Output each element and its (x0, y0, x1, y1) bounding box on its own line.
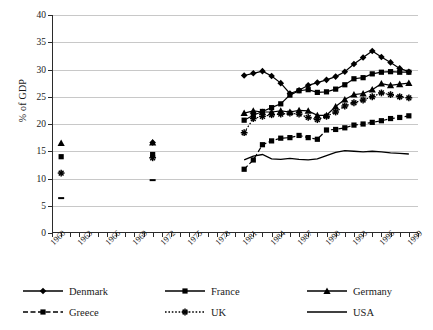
data-point-square (324, 127, 329, 132)
data-point-square (379, 118, 384, 123)
data-point-square (278, 136, 283, 141)
data-point-square (242, 167, 247, 172)
data-point-triangle (378, 80, 385, 87)
series-usa (58, 151, 409, 198)
series-line (244, 116, 409, 169)
data-point-diamond (378, 54, 385, 61)
data-point-square (296, 88, 301, 93)
data-point-square (370, 71, 375, 76)
data-point-asterisk (323, 113, 330, 120)
data-point-asterisk (332, 109, 339, 116)
data-point-diamond (259, 68, 266, 75)
data-point-asterisk (241, 129, 248, 136)
data-point-diamond (250, 70, 257, 77)
data-point-square (333, 127, 338, 132)
data-point-square (251, 157, 256, 162)
data-point-asterisk (351, 99, 358, 106)
series-uk (58, 90, 413, 177)
data-point-square (242, 118, 247, 123)
data-point-square (296, 133, 301, 138)
data-point-square (406, 113, 411, 118)
data-point-asterisk (378, 90, 385, 97)
data-point-diamond (241, 72, 248, 79)
data-point-square (361, 121, 366, 126)
series-greece (242, 113, 412, 172)
legend-marker-asterisk-icon (164, 305, 206, 319)
legend-row: DenmarkFranceGermany (22, 282, 412, 300)
legend-row: GreeceUKUSA (22, 303, 412, 321)
data-point-square (397, 70, 402, 75)
data-point-diamond (40, 288, 47, 295)
series-line (244, 151, 409, 160)
data-point-square (260, 142, 265, 147)
data-point-asterisk (182, 309, 189, 316)
data-point-square (379, 70, 384, 75)
legend-label: Greece (69, 307, 99, 318)
data-point-square (287, 93, 292, 98)
data-point-triangle (250, 107, 257, 114)
data-series-layer (0, 0, 433, 330)
data-point-asterisk (277, 111, 284, 118)
legend-item-denmark[interactable]: Denmark (22, 282, 108, 300)
data-point-triangle (369, 86, 376, 93)
series-france (59, 69, 412, 159)
data-point-square (388, 69, 393, 74)
legend-item-uk[interactable]: UK (164, 303, 226, 321)
data-point-square (306, 87, 311, 92)
legend-label: UK (211, 307, 226, 318)
legend-marker-square-icon (164, 284, 206, 298)
data-point-square (351, 122, 356, 127)
data-point-asterisk (305, 114, 312, 121)
data-point-square (342, 82, 347, 87)
data-point-square (388, 116, 393, 121)
legend-marker-none-icon (306, 305, 348, 319)
data-point-square (370, 120, 375, 125)
data-point-diamond (314, 79, 321, 86)
legend-marker-square-icon (22, 305, 64, 319)
legend-label: USA (353, 307, 374, 318)
data-point-square (406, 70, 411, 75)
data-point-square (361, 75, 366, 80)
series-germany (58, 80, 413, 147)
data-point-square (324, 89, 329, 94)
legend-item-france[interactable]: France (164, 282, 240, 300)
data-point-asterisk (341, 103, 348, 110)
data-point-asterisk (369, 93, 376, 100)
series-line (244, 83, 409, 115)
data-point-square (315, 90, 320, 95)
data-point-diamond (323, 77, 330, 84)
data-point-square (59, 154, 64, 159)
data-point-asterisk (149, 154, 156, 161)
data-point-triangle (405, 80, 412, 87)
data-point-triangle (58, 139, 65, 146)
data-point-asterisk (360, 97, 367, 104)
legend-label: Germany (353, 286, 392, 297)
data-point-square (278, 101, 283, 106)
data-point-asterisk (287, 110, 294, 117)
data-point-asterisk (58, 170, 65, 177)
chart-legend: DenmarkFranceGermanyGreeceUKUSA (22, 282, 412, 326)
data-point-square (351, 76, 356, 81)
data-point-square (287, 135, 292, 140)
data-point-asterisk (396, 93, 403, 100)
legend-label: France (211, 286, 240, 297)
data-point-diamond (387, 59, 394, 66)
data-point-triangle (341, 96, 348, 103)
chart-root: % of GDP 0510152025303540196019631966196… (0, 0, 433, 330)
data-point-square (182, 288, 187, 293)
data-point-square (315, 137, 320, 142)
legend-item-greece[interactable]: Greece (22, 303, 99, 321)
data-point-square (306, 135, 311, 140)
legend-marker-diamond-icon (22, 284, 64, 298)
data-point-square (333, 87, 338, 92)
legend-item-germany[interactable]: Germany (306, 282, 392, 300)
data-point-square (342, 125, 347, 130)
legend-item-usa[interactable]: USA (306, 303, 374, 321)
data-point-triangle (360, 90, 367, 97)
data-point-square (269, 138, 274, 143)
legend-marker-triangle-icon (306, 284, 348, 298)
data-point-asterisk (405, 94, 412, 101)
data-point-square (40, 309, 45, 314)
data-point-diamond (332, 73, 339, 80)
legend-label: Denmark (69, 286, 108, 297)
